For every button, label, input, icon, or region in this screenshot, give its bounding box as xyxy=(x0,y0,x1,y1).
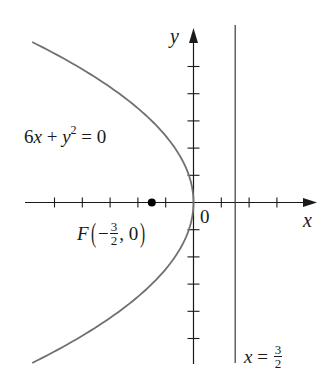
y-axis-label: y xyxy=(170,26,179,46)
focus-numerator: 3 xyxy=(110,220,119,234)
directrix-eq: = xyxy=(252,347,272,366)
equation-y: y xyxy=(62,126,70,147)
focus-name: F xyxy=(77,224,89,243)
x-axis-arrow-icon xyxy=(303,198,317,207)
directrix-numerator: 3 xyxy=(274,343,283,357)
focus-label: F ( − 3 2 , 0 ) xyxy=(77,219,147,247)
equation-label: 6x + y2 = 0 xyxy=(24,124,106,146)
focus-close-paren: ) xyxy=(140,219,145,247)
equation-x: x xyxy=(34,126,42,147)
directrix-var: x xyxy=(244,347,252,366)
directrix-label: x = 3 2 xyxy=(244,343,283,370)
parabola-figure xyxy=(0,0,327,383)
y-axis-arrow-icon xyxy=(189,28,198,43)
focus-minus: − xyxy=(98,224,109,243)
x-axis-label: x xyxy=(303,210,312,230)
equation-rhs: = 0 xyxy=(77,126,107,147)
focus-rest: , 0 xyxy=(119,224,138,243)
origin-label: 0 xyxy=(200,207,210,226)
focus-fraction: 3 2 xyxy=(110,220,119,247)
equation-coef: 6 xyxy=(24,126,34,147)
directrix-fraction: 3 2 xyxy=(274,343,283,370)
directrix-denominator: 2 xyxy=(274,357,283,370)
equation-plus: + xyxy=(42,126,62,147)
focus-denominator: 2 xyxy=(110,234,119,247)
focus-point xyxy=(148,199,156,207)
focus-open-paren: ( xyxy=(91,219,96,247)
